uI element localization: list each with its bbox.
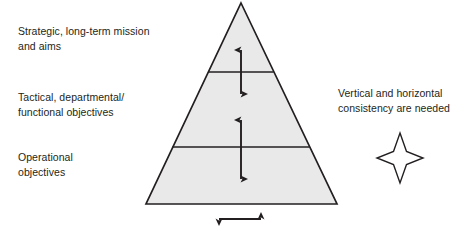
label-operational-objectives: Operational objectives bbox=[18, 150, 188, 179]
four-pointed-star-icon bbox=[377, 133, 423, 183]
label-strategic-mission: Strategic, long-term mission and aims bbox=[18, 24, 188, 53]
label-tactical-objectives: Tactical, departmental/ functional objec… bbox=[18, 90, 188, 119]
label-consistency-note: Vertical and horizontal consistency are … bbox=[338, 86, 468, 115]
diagram-canvas: Strategic, long-term mission and aims Ta… bbox=[0, 0, 472, 234]
